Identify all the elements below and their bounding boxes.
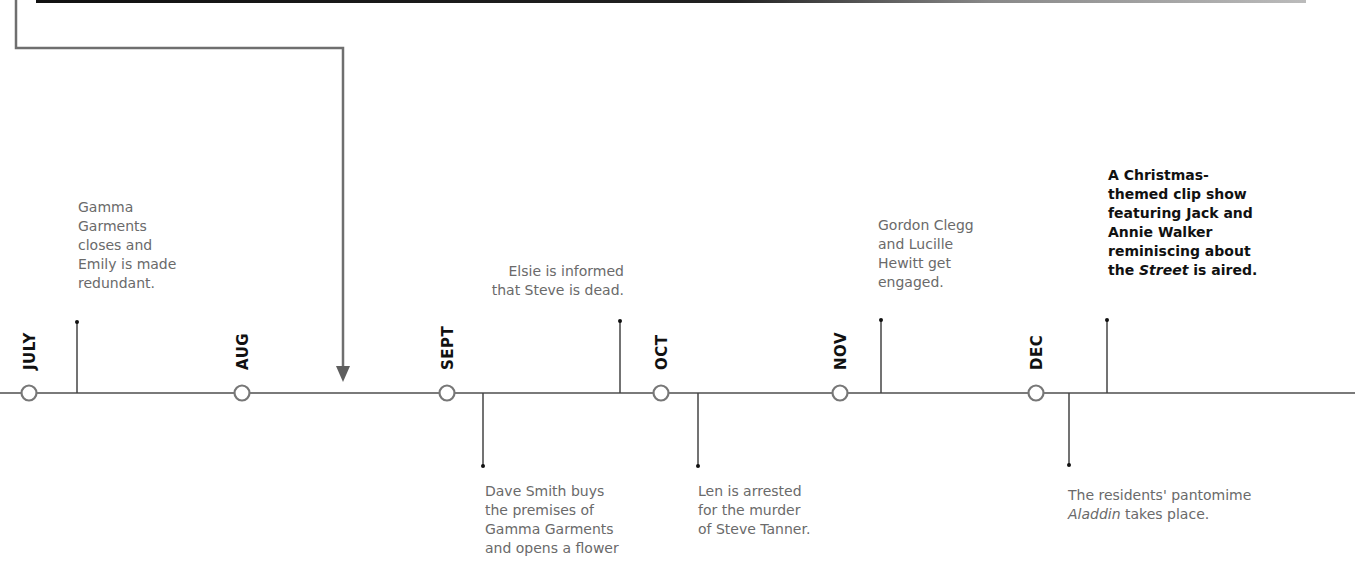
month-label-aug: AUG [234,333,252,370]
event-text-line: A Christmas- [1108,166,1257,185]
stem-dots-above [75,318,1109,324]
month-label-july: JULY [21,332,39,370]
event-text-line: Aladdin takes place. [1068,505,1251,524]
event-text-line: engaged. [878,273,974,292]
month-marker-oct [654,386,669,401]
event-gordon-lucille-engaged: Gordon Clegg and Lucille Hewitt get enga… [878,216,974,292]
event-text-line: featuring Jack and [1108,204,1257,223]
event-text-line: Gamma [78,198,176,217]
event-text-line: that Steve is dead. [466,281,624,300]
event-text-line: the premises of [485,501,619,520]
event-text-line: Elsie is informed [466,262,624,281]
stems-below [483,393,1069,466]
month-marker-sept [440,386,455,401]
event-text-line: and opens a flower [485,539,619,558]
event-text-line: The residents' pantomime [1068,486,1251,505]
event-italic-title: Street [1139,262,1188,278]
event-text-line: and Lucille [878,235,974,254]
stem-dots-below [481,463,1071,468]
event-text-line: Garments [78,217,176,236]
event-dave-smith-flower-shop: Dave Smith buys the premises of Gamma Ga… [485,482,619,558]
event-text-suffix: is aired. [1188,262,1257,278]
event-text-line: Len is arrested [698,482,810,501]
month-marker-july [22,386,37,401]
event-text-line: Dave Smith buys [485,482,619,501]
event-text-line: themed clip show [1108,185,1257,204]
event-text-line: Gordon Clegg [878,216,974,235]
stems-above [77,320,1107,393]
event-text-line: of Steve Tanner. [698,520,810,539]
month-label-nov: NOV [832,332,850,370]
month-label-sept: SEPT [439,326,457,370]
month-marker-aug [235,386,250,401]
arrow-down-icon [336,366,350,382]
event-text-line: for the murder [698,501,810,520]
connector-line [16,0,343,368]
event-text-line: redundant. [78,274,176,293]
month-marker-nov [833,386,848,401]
event-text-line: Hewitt get [878,254,974,273]
event-text-suffix: takes place. [1121,506,1210,522]
month-label-oct: OCT [653,335,671,371]
month-marker-dec [1029,386,1044,401]
event-text-line: the Street is aired. [1108,261,1257,280]
event-text-prefix: the [1108,262,1139,278]
event-italic-title: Aladdin [1068,506,1121,522]
event-text-line: Annie Walker [1108,223,1257,242]
event-christmas-clip-show: A Christmas- themed clip show featuring … [1108,166,1257,280]
month-label-dec: DEC [1028,335,1046,370]
event-text-line: closes and [78,236,176,255]
event-gamma-closes: Gamma Garments closes and Emily is made … [78,198,176,293]
event-text-line: Emily is made [78,255,176,274]
event-text-line: reminiscing about [1108,242,1257,261]
event-elsie-informed: Elsie is informed that Steve is dead. [466,262,624,300]
event-aladdin-pantomime: The residents' pantomime Aladdin takes p… [1068,486,1251,524]
event-len-arrested: Len is arrested for the murder of Steve … [698,482,810,539]
event-text-line: Gamma Garments [485,520,619,539]
